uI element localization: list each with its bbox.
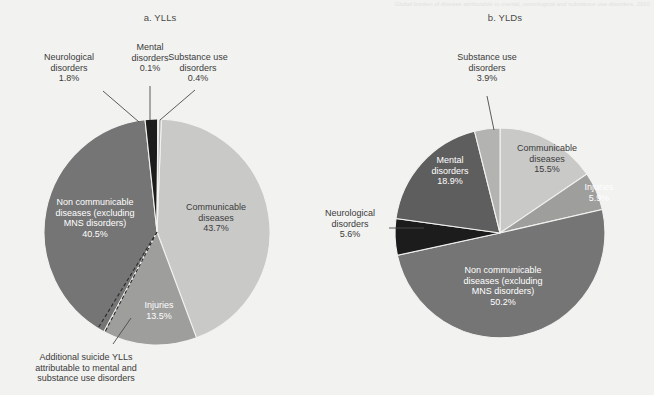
label-communicable-ylls: Communicablediseases 43.7% [170, 202, 262, 234]
label-injuries-ylls: Injuries 13.5% [128, 300, 190, 321]
label-mental-ylds-value: 18.9% [437, 176, 463, 186]
label-communicable-ylls-name: Communicablediseases [186, 202, 246, 223]
label-substance-use-ylls-name: Substance usedisorders [168, 52, 228, 73]
label-communicable-ylls-value: 43.7% [203, 223, 229, 233]
label-non-communicable-ylls: Non communicablediseases (excludingMNS d… [42, 197, 148, 239]
leader-substance-b [487, 96, 494, 130]
label-injuries-ylds: Injuries 5.9% [570, 182, 628, 203]
label-neurological-ylds-name: Neurologicaldisorders [325, 208, 375, 229]
annotation-additional-suicide-ylls-text: Additional suicide YLLsattributable to m… [35, 352, 137, 383]
label-neurological-ylds-value: 5.6% [340, 229, 361, 239]
label-non-communicable-ylds-name: Non communicablediseases (excludingMNS d… [463, 265, 542, 296]
annotation-additional-suicide-ylls: Additional suicide YLLsattributable to m… [16, 352, 156, 384]
label-substance-use-ylls: Substance usedisorders 0.4% [155, 52, 241, 84]
label-injuries-ylls-name: Injuries [144, 300, 173, 310]
label-non-communicable-ylds: Non communicablediseases (excludingMNS d… [450, 265, 556, 307]
label-injuries-ylds-value: 5.9% [589, 193, 610, 203]
label-substance-use-ylds-name: Substance usedisorders [457, 52, 517, 73]
label-communicable-ylds: Communicablediseases 15.5% [505, 143, 589, 175]
leader-substance-a [160, 90, 195, 120]
label-injuries-ylls-value: 13.5% [146, 311, 172, 321]
label-injuries-ylds-name: Injuries [584, 182, 613, 192]
label-non-communicable-ylls-name: Non communicablediseases (excludingMNS d… [55, 197, 134, 228]
label-communicable-ylds-name: Communicablediseases [517, 143, 577, 164]
label-neurological-ylls: Neurologicaldisorders 1.8% [26, 52, 112, 84]
label-neurological-ylls-value: 1.8% [59, 73, 80, 83]
label-substance-use-ylls-value: 0.4% [188, 73, 209, 83]
label-communicable-ylds-value: 15.5% [534, 164, 560, 174]
label-mental-ylds: Mentaldisorders 18.9% [415, 155, 485, 187]
label-neurological-ylds: Neurologicaldisorders 5.6% [310, 208, 390, 240]
label-non-communicable-ylds-value: 50.2% [490, 297, 516, 307]
leader-neurological-a [103, 91, 139, 122]
label-neurological-ylls-name: Neurologicaldisorders [44, 52, 94, 73]
label-mental-ylds-name: Mentaldisorders [431, 155, 468, 176]
label-non-communicable-ylls-value: 40.5% [82, 229, 108, 239]
label-substance-use-ylds-value: 3.9% [477, 73, 498, 83]
figure-canvas: Global burden of disease attributable to… [0, 0, 654, 395]
label-substance-use-ylds: Substance usedisorders 3.9% [443, 52, 531, 84]
